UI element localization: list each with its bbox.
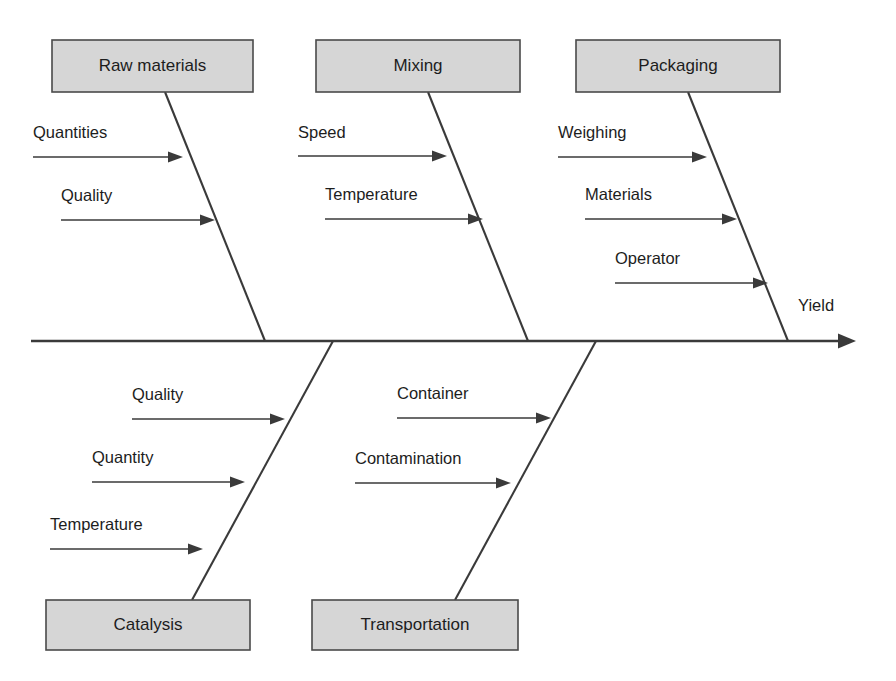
cause-arrow-head-catalysis-0 (270, 413, 285, 424)
cause-raw-materials-0[interactable]: Quantities (33, 123, 183, 163)
spine-arrow-head (838, 334, 856, 349)
cause-arrow-head-mixing-0 (432, 150, 447, 161)
cause-arrow-head-transportation-0 (536, 412, 551, 423)
cause-label-catalysis-2: Temperature (50, 515, 143, 533)
cause-mixing-1[interactable]: Temperature (325, 185, 483, 225)
category-catalysis: CatalysisQualityQuantityTemperature (46, 341, 333, 650)
cause-label-mixing-1: Temperature (325, 185, 418, 203)
bone-line-transportation (455, 341, 596, 600)
cause-arrow-head-catalysis-1 (230, 476, 245, 487)
category-raw-materials: Raw materialsQuantitiesQuality (33, 40, 265, 341)
cause-catalysis-2[interactable]: Temperature (50, 515, 203, 555)
category-box-raw-materials[interactable]: Raw materials (52, 40, 253, 92)
cause-label-raw-materials-0: Quantities (33, 123, 107, 141)
cause-arrow-head-packaging-1 (722, 213, 737, 224)
categories-group: Raw materialsQuantitiesQualityMixingSpee… (33, 40, 788, 650)
spine-group (31, 334, 856, 349)
category-box-catalysis[interactable]: Catalysis (46, 600, 250, 650)
cause-label-raw-materials-1: Quality (61, 186, 113, 204)
cause-label-catalysis-1: Quantity (92, 448, 154, 466)
cause-label-packaging-0: Weighing (558, 123, 627, 141)
category-box-label-transportation: Transportation (361, 615, 470, 634)
cause-transportation-0[interactable]: Container (397, 384, 551, 424)
category-box-label-packaging: Packaging (638, 56, 717, 75)
cause-arrow-head-raw-materials-1 (200, 214, 215, 225)
category-box-label-raw-materials: Raw materials (99, 56, 207, 75)
category-box-label-catalysis: Catalysis (114, 615, 183, 634)
cause-catalysis-0[interactable]: Quality (132, 385, 285, 425)
fishbone-canvas: Raw materialsQuantitiesQualityMixingSpee… (0, 0, 896, 681)
category-mixing: MixingSpeedTemperature (298, 40, 528, 341)
category-box-packaging[interactable]: Packaging (576, 40, 780, 92)
cause-mixing-0[interactable]: Speed (298, 123, 447, 162)
category-box-mixing[interactable]: Mixing (316, 40, 520, 92)
bone-line-catalysis (192, 341, 333, 600)
cause-label-packaging-1: Materials (585, 185, 652, 203)
cause-catalysis-1[interactable]: Quantity (92, 448, 245, 488)
category-box-transportation[interactable]: Transportation (312, 600, 518, 650)
cause-packaging-1[interactable]: Materials (585, 185, 737, 225)
bone-line-packaging (688, 92, 788, 341)
cause-arrow-head-catalysis-2 (188, 543, 203, 554)
cause-label-catalysis-0: Quality (132, 385, 184, 403)
effect-label-group: Yield (798, 296, 834, 314)
category-packaging: PackagingWeighingMaterialsOperator (558, 40, 788, 341)
cause-arrow-head-transportation-1 (496, 477, 511, 488)
cause-arrow-head-packaging-0 (692, 151, 707, 162)
cause-label-packaging-2: Operator (615, 249, 681, 267)
category-box-label-mixing: Mixing (393, 56, 442, 75)
bone-line-mixing (428, 92, 528, 341)
fishbone-diagram: Raw materialsQuantitiesQualityMixingSpee… (0, 0, 896, 681)
cause-transportation-1[interactable]: Contamination (355, 449, 511, 489)
cause-packaging-0[interactable]: Weighing (558, 123, 707, 163)
effect-label: Yield (798, 296, 834, 314)
cause-label-mixing-0: Speed (298, 123, 346, 141)
cause-packaging-2[interactable]: Operator (615, 249, 768, 289)
cause-raw-materials-1[interactable]: Quality (61, 186, 215, 226)
category-transportation: TransportationContainerContamination (312, 341, 596, 650)
bone-line-raw-materials (165, 92, 265, 341)
cause-arrow-head-raw-materials-0 (168, 151, 183, 162)
cause-label-transportation-1: Contamination (355, 449, 461, 467)
cause-label-transportation-0: Container (397, 384, 469, 402)
